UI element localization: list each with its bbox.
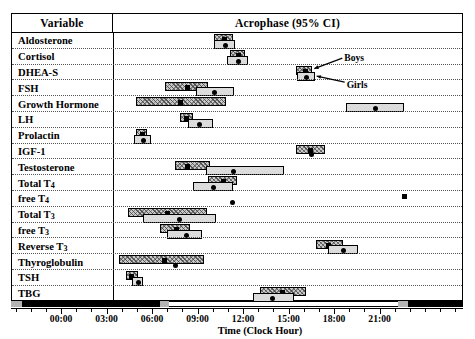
table-row: Cortisol: [12, 49, 462, 65]
acrophase-marker-girls: [309, 152, 314, 157]
table-row: Reverse T3: [12, 238, 462, 254]
axis-title-text: Time (Clock Hour): [172, 325, 303, 336]
row-label-total-t3: Total T3: [18, 207, 112, 223]
row-plot: [113, 254, 462, 270]
header-acrophase: Acrophase (95% CI): [113, 14, 462, 32]
axis-tick-minor: [46, 308, 47, 312]
axis-tick-label: 15:00: [277, 313, 299, 324]
axis-tick-minor: [304, 308, 305, 312]
row-label-lh: LH: [18, 112, 112, 128]
axis-tick-minor: [455, 308, 456, 312]
row-plot: [113, 270, 462, 286]
axis-tick-label: 21:00: [368, 313, 390, 324]
legend-girls-label: Girls: [347, 79, 368, 90]
acrophase-marker-boys: [185, 164, 190, 169]
row-plot: [113, 238, 462, 254]
table-row: free T4: [12, 191, 462, 207]
row-label-tbg: TBG: [18, 286, 112, 302]
axis-tick-minor: [91, 308, 92, 312]
table-row: Growth Hormone: [12, 96, 462, 112]
table-row: Total T3: [12, 207, 462, 223]
table-row: IGF-1: [12, 144, 462, 160]
axis-tick-minor: [273, 308, 274, 312]
axis-tick-label: 00:00: [50, 313, 72, 324]
row-plot: [113, 49, 462, 65]
acrophase-marker-boys: [402, 194, 407, 199]
chart-rows: AldosteroneCortisolDHEA-SFSHGrowth Hormo…: [12, 33, 462, 300]
row-plot: [113, 144, 462, 160]
row-label-free-t3: free T3: [18, 223, 112, 239]
axis-tick-minor: [31, 308, 32, 312]
axis-tick-minor: [410, 308, 411, 312]
row-label-aldosterone: Aldosterone: [18, 33, 112, 49]
table-row: DHEA-S: [12, 65, 462, 81]
table-row: Thyroglobulin: [12, 254, 462, 270]
axis-tick-minor: [213, 308, 214, 312]
row-plot: [113, 223, 462, 239]
row-label-total-t4: Total T4: [18, 175, 112, 191]
row-label-fsh: FSH: [18, 80, 112, 96]
table-row: free T3: [12, 223, 462, 239]
row-label-growth-hormone: Growth Hormone: [18, 96, 112, 112]
table-row: Prolactin: [12, 128, 462, 144]
table-row: FSH: [12, 80, 462, 96]
x-axis: 00:0003:0006:0009:0012:0015:0018:0021:00…: [11, 301, 463, 339]
row-label-cortisol: Cortisol: [18, 49, 112, 65]
row-plot: [113, 112, 462, 128]
axis-tick-minor: [122, 308, 123, 312]
row-label-thyroglobulin: Thyroglobulin: [18, 254, 112, 270]
axis-tick-minor: [425, 308, 426, 312]
row-plot: [113, 80, 462, 96]
row-label-igf-1: IGF-1: [18, 144, 112, 160]
acrophase-marker-boys: [162, 258, 167, 263]
row-label-free-t4: free T4: [18, 191, 112, 207]
chart-frame: Variable Acrophase (95% CI) AldosteroneC…: [11, 13, 463, 301]
table-row: Testosterone: [12, 159, 462, 175]
axis-tick-minor: [364, 308, 365, 312]
axis-tick-minor: [319, 308, 320, 312]
row-plot: [113, 159, 462, 175]
row-plot: [113, 207, 462, 223]
ci-bar-boys: [136, 97, 225, 106]
table-row: Total T4: [12, 175, 462, 191]
acrophase-marker-girls: [230, 200, 235, 205]
axis-tick-minor: [16, 308, 17, 312]
row-plot: [113, 65, 462, 81]
axis-tick-minor: [228, 308, 229, 312]
axis-tick-minor: [349, 308, 350, 312]
axis-tick-label: 06:00: [141, 313, 163, 324]
row-plot: [113, 33, 462, 49]
axis-tick-label: 03:00: [95, 313, 117, 324]
axis-tick-label: 09:00: [186, 313, 208, 324]
row-plot: [113, 128, 462, 144]
row-label-dhea-s: DHEA-S: [18, 65, 112, 81]
acrophase-marker-girls: [173, 263, 178, 268]
axis-tick-minor: [182, 308, 183, 312]
axis-tick-minor: [440, 308, 441, 312]
axis-tick-minor: [137, 308, 138, 312]
axis-tick-minor: [395, 308, 396, 312]
axis-title: Time (Clock Hour): [11, 325, 463, 336]
row-plot: [113, 191, 462, 207]
daynight-segment-dusk: [398, 301, 409, 307]
daynight-segment-dark: [22, 301, 160, 307]
daynight-segment-dusk: [160, 301, 169, 307]
row-label-prolactin: Prolactin: [18, 128, 112, 144]
axis-tick-minor: [76, 308, 77, 312]
table-row: Aldosterone: [12, 33, 462, 49]
axis-tick-minor: [258, 308, 259, 312]
daynight-segment-dark: [408, 301, 463, 307]
table-row: LH: [12, 112, 462, 128]
legend-boys-label: Boys: [344, 52, 364, 63]
acrophase-marker-boys: [185, 85, 190, 90]
chart-root: Variable Acrophase (95% CI) AldosteroneC…: [0, 0, 475, 339]
row-plot: [113, 286, 462, 302]
row-label-reverse-t3: Reverse T3: [18, 238, 112, 254]
row-label-tsh: TSH: [18, 270, 112, 286]
axis-tick-label: 18:00: [323, 313, 345, 324]
row-plot: [113, 96, 462, 112]
acrophase-marker-boys: [178, 100, 183, 105]
daynight-segment-light: [169, 301, 398, 307]
daynight-segment-dusk: [11, 301, 22, 307]
table-header-row: Variable Acrophase (95% CI): [12, 14, 462, 33]
